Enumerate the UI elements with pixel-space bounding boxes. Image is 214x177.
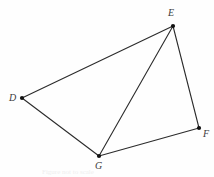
- diagonal-EG: [99, 26, 173, 156]
- figure-canvas: [0, 0, 214, 177]
- figure-caption: Figure not to scale: [42, 168, 132, 176]
- vertex-dot-D: [20, 96, 24, 100]
- edge-EF: [173, 26, 199, 128]
- edge-group: [22, 26, 199, 156]
- edge-DE: [22, 26, 173, 98]
- vertex-dot-G: [97, 154, 101, 158]
- vertex-dot-F: [197, 126, 201, 130]
- vertex-label-D: D: [9, 93, 16, 103]
- vertex-dot-E: [171, 24, 175, 28]
- edge-GD: [22, 98, 99, 156]
- vertex-dot-group: [20, 24, 201, 158]
- geometry-figure: D E F G Figure not to scale: [0, 0, 214, 177]
- edge-FG: [99, 128, 199, 156]
- vertex-label-F: F: [203, 129, 209, 139]
- vertex-label-E: E: [168, 8, 174, 18]
